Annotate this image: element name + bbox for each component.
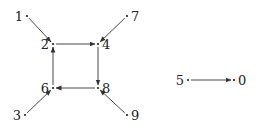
node-dot [187, 79, 189, 81]
node-7: 7 [126, 9, 139, 24]
node-label: 1 [15, 9, 23, 24]
node-dot [52, 87, 54, 89]
edges-layer [27, 18, 231, 113]
node-label: 4 [102, 37, 110, 52]
node-8: 8 [97, 81, 110, 96]
node-dot [26, 15, 28, 17]
node-dot [24, 114, 26, 116]
node-5: 5 [176, 73, 189, 88]
node-label: 2 [41, 37, 49, 52]
node-3: 3 [13, 108, 26, 123]
node-label: 3 [13, 108, 21, 123]
node-4: 4 [97, 37, 110, 52]
node-9: 9 [126, 108, 139, 123]
node-dot [97, 87, 99, 89]
node-2: 2 [41, 37, 54, 52]
node-dot [233, 79, 235, 81]
node-dot [52, 43, 54, 45]
node-dot [97, 43, 99, 45]
node-dot [126, 15, 128, 17]
node-0: 0 [233, 73, 246, 88]
graph-diagram: 0123456789 [0, 0, 259, 131]
node-6: 6 [41, 81, 54, 96]
node-1: 1 [15, 9, 28, 24]
node-label: 0 [238, 73, 246, 88]
node-label: 7 [131, 9, 139, 24]
node-label: 5 [176, 73, 184, 88]
node-label: 9 [131, 108, 139, 123]
node-label: 6 [41, 81, 49, 96]
node-label: 8 [102, 81, 110, 96]
node-dot [126, 114, 128, 116]
nodes-layer: 0123456789 [13, 9, 247, 123]
